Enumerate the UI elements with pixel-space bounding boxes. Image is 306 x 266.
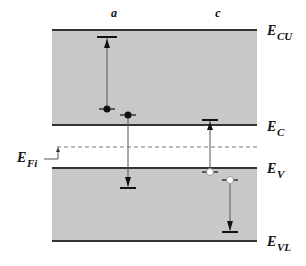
band-diagram: a c E CU E C E V E VL E Fi bbox=[0, 0, 306, 266]
label-a: a bbox=[111, 6, 117, 20]
label-ev-main: E bbox=[266, 161, 276, 176]
label-evl-main: E bbox=[266, 234, 276, 249]
hole-icon bbox=[227, 177, 234, 184]
label-efi-main: E bbox=[16, 150, 26, 165]
label-ec-main: E bbox=[266, 119, 276, 134]
label-ecu: E CU bbox=[266, 23, 293, 42]
electron-icon bbox=[104, 106, 111, 113]
efi-leader bbox=[44, 151, 58, 159]
label-efi: E Fi bbox=[16, 150, 38, 169]
electron-icon bbox=[125, 112, 132, 119]
efi-leader-arrow-icon bbox=[56, 147, 60, 152]
label-ec: E C bbox=[266, 119, 285, 138]
label-ev: E V bbox=[266, 161, 286, 180]
label-ecu-sub: CU bbox=[277, 30, 293, 42]
label-c: c bbox=[215, 6, 221, 20]
label-ev-sub: V bbox=[277, 168, 286, 180]
label-evl-sub: VL bbox=[277, 241, 291, 253]
label-efi-sub: Fi bbox=[26, 157, 38, 169]
label-evl: E VL bbox=[266, 234, 291, 253]
conduction-band bbox=[52, 30, 257, 125]
label-ecu-main: E bbox=[266, 23, 276, 38]
label-ec-sub: C bbox=[277, 126, 285, 138]
hole-icon bbox=[207, 169, 214, 176]
